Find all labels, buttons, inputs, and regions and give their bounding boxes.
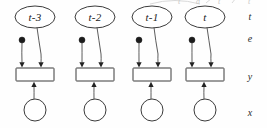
top-clipped-artifact-text: t: [218, 0, 221, 6]
ellipse-node-label-1: t-3: [28, 11, 41, 23]
edge-ellipse-to-rect-2: [97, 28, 101, 55]
arrowhead-down-left-3: [136, 62, 141, 67]
top-clipped-artifact: [150, 1, 200, 5]
row-label-t: t: [249, 11, 252, 22]
arrowhead-down-right-4: [208, 62, 213, 67]
rect-node-1[interactable]: [16, 68, 54, 81]
top-clipped-artifact: [206, 0, 212, 3]
time-slice-3: t-1: [132, 6, 172, 28]
row-label-x: x: [247, 107, 253, 118]
time-slice-4: t: [185, 6, 225, 28]
arrowhead-up-2: [91, 82, 96, 87]
figure-canvas: tdttt-3t-2t-1tteyx: [0, 0, 267, 128]
top-clipped-artifact-text: t: [248, 0, 251, 6]
circle-node-3[interactable]: [141, 99, 163, 121]
arrowhead-down-right-1: [38, 62, 43, 67]
time-slice-2: t-2: [75, 6, 115, 28]
row-label-e: e: [248, 33, 253, 44]
top-clipped-artifact: [232, 0, 236, 3]
rect-node-4[interactable]: [186, 68, 224, 81]
ellipse-node-label-3: t-1: [145, 11, 158, 23]
dot-node-4[interactable]: [189, 37, 195, 43]
time-slice-1: t-3: [15, 6, 55, 28]
arrowhead-up-4: [201, 82, 206, 87]
ellipse-node-label-2: t-2: [88, 11, 101, 23]
row-label-y: y: [247, 71, 253, 82]
arrowhead-up-3: [148, 82, 153, 87]
dot-node-3[interactable]: [136, 37, 142, 43]
dot-node-1[interactable]: [19, 37, 25, 43]
circle-node-1[interactable]: [24, 99, 46, 121]
top-clipped-artifact-text: d: [196, 0, 201, 6]
arrowhead-down-left-4: [189, 62, 194, 67]
arrowhead-up-1: [31, 82, 36, 87]
arrowhead-down-right-2: [98, 62, 103, 67]
rect-node-2[interactable]: [76, 68, 114, 81]
arrowhead-down-left-2: [79, 62, 84, 67]
arrowhead-down-right-3: [155, 62, 160, 67]
dot-node-2[interactable]: [79, 37, 85, 43]
diagram-svg: tdttt-3t-2t-1tteyx: [0, 0, 267, 128]
edge-ellipse-to-rect-4: [207, 28, 211, 55]
edge-ellipse-to-rect-3: [154, 28, 158, 55]
circle-node-4[interactable]: [194, 99, 216, 121]
rect-node-3[interactable]: [133, 68, 171, 81]
arrowhead-down-left-1: [19, 62, 24, 67]
edge-ellipse-to-rect-1: [37, 28, 41, 55]
circle-node-2[interactable]: [84, 99, 106, 121]
